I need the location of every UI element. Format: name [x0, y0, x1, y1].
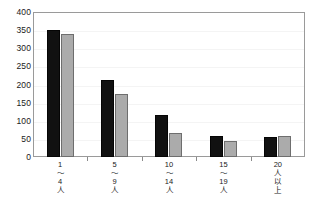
bar-series-b-3 [224, 141, 237, 157]
bars-layer [33, 12, 305, 157]
bar-series-b-4 [278, 136, 291, 157]
x-axis-label-line: 人 [111, 187, 118, 196]
bar-series-a-0 [47, 30, 60, 157]
y-axis-tick-label: 0 [26, 153, 31, 162]
bar-group [33, 12, 87, 157]
y-axis-tick-label: 100 [17, 117, 31, 126]
x-axis-category-label: 15～19人 [219, 161, 227, 195]
bar-series-a-4 [264, 137, 277, 157]
y-axis: 050100150200250300350400 [0, 0, 31, 157]
x-axis-label-line: 人 [165, 187, 173, 196]
x-axis-label-line: 人 [219, 187, 227, 196]
bar-group [142, 12, 196, 157]
bar-group [251, 12, 305, 157]
y-axis-tick-label: 250 [17, 62, 31, 71]
bar-chart: 050100150200250300350400 1～4人5～9人10～14人1… [0, 0, 317, 205]
x-axis-category-label: 20人以上 [274, 161, 282, 195]
x-axis-category-label: 1～4人 [57, 161, 64, 195]
bar-series-b-0 [61, 34, 74, 157]
bar-series-a-1 [101, 80, 114, 157]
bar-series-b-2 [169, 133, 182, 157]
y-axis-tick-label: 50 [21, 135, 31, 144]
y-axis-tick-label: 150 [17, 98, 31, 107]
bar-group [87, 12, 141, 157]
y-axis-tick-label: 350 [17, 26, 31, 35]
x-axis: 1～4人5～9人10～14人15～19人20人以上 [33, 161, 305, 205]
y-axis-tick-label: 400 [17, 8, 31, 17]
y-axis-tick-label: 300 [17, 44, 31, 53]
bar-series-b-1 [115, 94, 128, 157]
bar-series-a-2 [155, 115, 168, 157]
x-axis-label-line: 上 [274, 187, 282, 196]
x-axis-category-label: 10～14人 [165, 161, 173, 195]
y-axis-tick-label: 200 [17, 80, 31, 89]
bar-group [196, 12, 250, 157]
x-axis-label-line: 人 [57, 187, 64, 196]
bar-series-a-3 [210, 136, 223, 157]
x-axis-category-label: 5～9人 [111, 161, 118, 195]
